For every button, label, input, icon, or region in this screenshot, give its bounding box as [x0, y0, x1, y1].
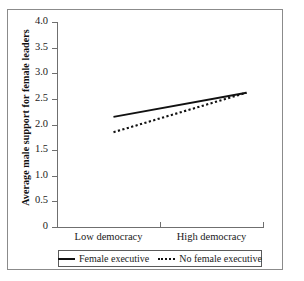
y-axis-tick [52, 201, 57, 202]
y-axis-tick-label: 4.0 [18, 16, 48, 26]
legend-dotted-line-icon [158, 255, 175, 263]
y-axis-tick-label: 2.5 [18, 93, 48, 103]
legend-item-label: No female executive [179, 253, 262, 264]
legend-item-no-female-executive: No female executive [158, 253, 262, 264]
y-axis-tick-label: 2.0 [18, 119, 48, 129]
legend: Female executive No female executive [58, 250, 262, 267]
legend-item-label: Female executive [79, 253, 149, 264]
legend-solid-line-icon [58, 255, 75, 263]
y-axis-tick-label: 3.5 [18, 42, 48, 52]
y-axis-tick-label: 3.0 [18, 67, 48, 77]
y-axis-tick [52, 73, 57, 74]
y-axis-tick [52, 99, 57, 100]
x-axis-tick [160, 222, 161, 228]
x-axis-tick-label: Low democracy [59, 231, 159, 243]
y-axis-tick [52, 22, 57, 23]
x-axis-tick-label: High democracy [162, 231, 262, 243]
y-axis-tick [52, 125, 57, 126]
figure-container: Average male support for female leaders … [0, 0, 304, 281]
y-axis-tick-label: 0.5 [18, 195, 48, 205]
y-axis-tick-label: 0 [18, 221, 48, 231]
y-axis-tick-label: 1.5 [18, 144, 48, 154]
y-axis-tick-label: 1.0 [18, 170, 48, 180]
y-axis-line [57, 22, 58, 228]
x-axis-tick [57, 222, 58, 228]
x-axis-tick [263, 222, 264, 228]
y-axis-tick [52, 150, 57, 151]
y-axis-tick [52, 176, 57, 177]
y-axis-tick [52, 48, 57, 49]
legend-item-female-executive: Female executive [58, 253, 149, 264]
